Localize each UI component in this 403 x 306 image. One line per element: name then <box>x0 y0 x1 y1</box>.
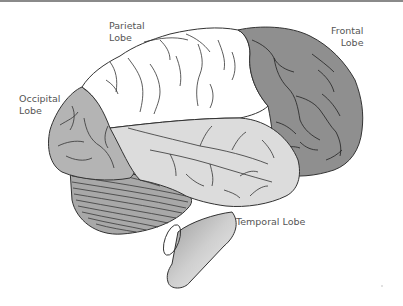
label-temporal-line1: Temporal Lobe <box>236 216 305 228</box>
label-occipital-line2: Lobe <box>19 105 60 117</box>
stray-mark <box>381 285 383 287</box>
label-occipital-line1: Occipital <box>19 93 60 105</box>
label-occipital-lobe: Occipital Lobe <box>19 93 60 117</box>
label-parietal-line1: Parietal <box>109 20 145 32</box>
label-parietal-line2: Lobe <box>109 32 145 44</box>
label-frontal-line2: Lobe <box>331 37 364 49</box>
brain-diagram: Parietal Lobe Occipital Lobe Frontal Lob… <box>0 0 403 306</box>
label-temporal-lobe: Temporal Lobe <box>236 216 305 228</box>
label-frontal-line1: Frontal <box>331 25 364 37</box>
label-frontal-lobe: Frontal Lobe <box>331 25 364 49</box>
label-parietal-lobe: Parietal Lobe <box>109 20 145 44</box>
brainstem <box>160 212 236 288</box>
